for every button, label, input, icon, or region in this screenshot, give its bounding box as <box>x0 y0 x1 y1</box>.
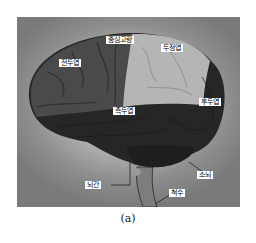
label-central-sulcus: 중심고랑 <box>106 36 134 44</box>
label-cerebellum: 소뇌 <box>197 171 213 179</box>
brainstem-leader-line <box>111 162 130 185</box>
label-spinal-cord: 척수 <box>169 189 185 197</box>
brain-illustration-panel: 중심고랑 두정엽 전두엽 측두엽 후두엽 소뇌 뇌간 척수 <box>17 17 240 207</box>
label-frontal-lobe: 전두엽 <box>59 59 81 67</box>
label-occipital-lobe: 후두엽 <box>199 98 221 106</box>
spinal-cord-leader-line <box>155 195 170 204</box>
label-parietal-lobe: 두정엽 <box>161 44 183 52</box>
figure-caption: (a) <box>0 212 256 225</box>
label-temporal-lobe: 측두엽 <box>113 107 135 115</box>
label-brainstem: 뇌간 <box>85 181 101 189</box>
frontal-lobe-shape <box>31 34 132 117</box>
